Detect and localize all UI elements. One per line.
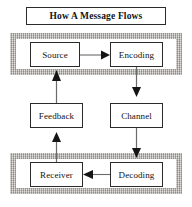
node-feedback[interactable]: Feedback: [30, 103, 83, 128]
node-decoding[interactable]: Decoding: [110, 162, 163, 187]
node-receiver[interactable]: Receiver: [30, 162, 83, 187]
node-source-label: Source: [42, 50, 68, 60]
diagram-title: How A Message Flows: [50, 11, 143, 21]
node-channel[interactable]: Channel: [110, 103, 163, 128]
node-encoding-label: Encoding: [119, 50, 154, 60]
node-channel-label: Channel: [121, 111, 152, 121]
message-flow-diagram: How A Message Flows: [0, 0, 192, 207]
node-feedback-label: Feedback: [39, 111, 74, 121]
node-source[interactable]: Source: [30, 42, 80, 67]
node-decoding-label: Decoding: [119, 170, 155, 180]
node-receiver-label: Receiver: [40, 170, 73, 180]
diagram-title-box: How A Message Flows: [26, 7, 166, 25]
node-encoding[interactable]: Encoding: [110, 42, 163, 67]
